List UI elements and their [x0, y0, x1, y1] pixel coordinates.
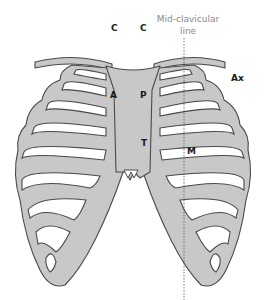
label-p: P [140, 91, 147, 100]
label-m: M [187, 147, 196, 156]
rib-cage-diagram [0, 0, 266, 300]
label-c-right: C [140, 24, 147, 33]
mid-clavicular-label-line1: Mid-clavicular [150, 13, 226, 25]
label-t: T [141, 139, 147, 148]
label-a: A [110, 91, 117, 100]
mid-clavicular-label: Mid-clavicular line [150, 13, 226, 37]
mid-clavicular-label-line2: line [150, 25, 226, 37]
label-ax: Ax [231, 74, 244, 83]
label-c-left: C [111, 24, 118, 33]
